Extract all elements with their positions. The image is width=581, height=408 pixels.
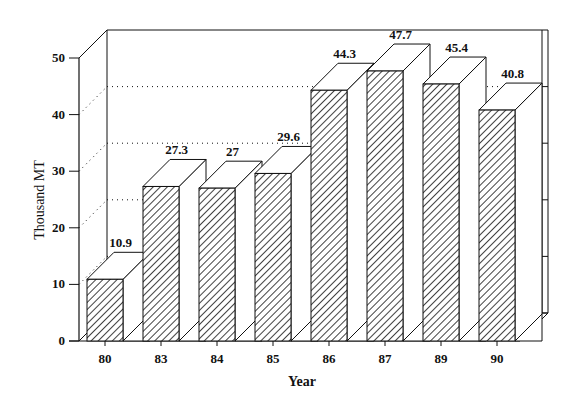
bar	[255, 146, 318, 341]
bar	[423, 57, 486, 341]
bar	[143, 159, 206, 341]
bar	[199, 161, 262, 341]
bar-front-face	[423, 84, 459, 341]
data-label: 27.3	[165, 142, 188, 157]
bar-front-face	[87, 279, 123, 341]
data-label: 29.6	[277, 129, 300, 144]
y-tick-label: 20	[52, 220, 65, 235]
bar	[367, 44, 430, 341]
y-tick-label: 40	[52, 107, 65, 122]
y-tick-label: 50	[52, 50, 65, 65]
x-tick-label: 87	[379, 351, 393, 366]
x-tick-label: 84	[211, 351, 225, 366]
data-label: 27	[226, 144, 240, 159]
x-tick-label: 86	[323, 351, 337, 366]
y-tick-label: 10	[52, 276, 65, 291]
bar-front-face	[255, 173, 291, 341]
data-label: 44.3	[333, 46, 356, 61]
bar-front-face	[479, 110, 515, 341]
data-label: 40.8	[501, 66, 524, 81]
bar-chart-3d: 010203040508083848586878990 10.927.32729…	[0, 0, 581, 408]
bar-front-face	[311, 90, 347, 341]
gridline-side	[79, 87, 107, 115]
bar-front-face	[143, 186, 179, 341]
x-tick-label: 80	[99, 351, 112, 366]
y-axis-title: Thousand MT	[32, 160, 47, 240]
bar-side-face	[515, 83, 542, 341]
x-tick-label: 85	[267, 351, 281, 366]
x-axis-title: Year	[288, 374, 316, 389]
bar-front-face	[199, 188, 235, 341]
top-diagonal	[79, 30, 107, 58]
gridline-side	[79, 143, 107, 171]
x-tick-label: 89	[435, 351, 449, 366]
data-label: 10.9	[109, 235, 132, 250]
gridline-side	[79, 200, 107, 228]
y-tick-label: 30	[52, 163, 65, 178]
bar	[311, 63, 374, 341]
data-label: 45.4	[445, 40, 468, 55]
y-tick-label: 0	[59, 333, 66, 348]
bars	[87, 44, 542, 341]
bar	[479, 83, 542, 341]
data-label: 47.7	[389, 27, 412, 42]
bar	[87, 252, 150, 341]
x-tick-label: 83	[155, 351, 169, 366]
x-tick-label: 90	[491, 351, 504, 366]
bar-front-face	[367, 71, 403, 341]
